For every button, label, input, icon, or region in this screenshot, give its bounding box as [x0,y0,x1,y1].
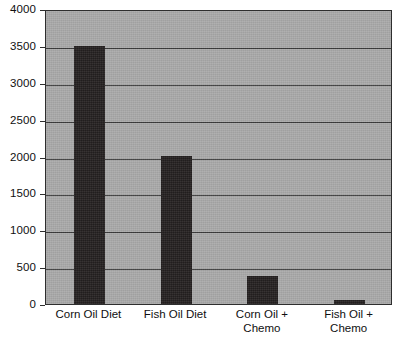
y-axis-tick-label: 4000 [10,4,36,16]
x-axis-tick-label: Fish Oil + Chemo [305,308,392,335]
bar [334,300,365,304]
y-axis-tick-label: 0 [30,299,37,311]
bar [247,276,278,304]
x-axis-tick-label: Fish Oil Diet [132,308,219,322]
bar-chart: 40003500300025002000150010005000 Corn Oi… [0,0,405,348]
x-axis-tick-label: Corn Oil + Chemo [219,308,306,335]
plot-area [45,10,392,305]
y-axis: 40003500300025002000150010005000 [0,0,42,348]
x-axis-tick-label: Corn Oil Diet [45,308,132,322]
y-axis-tick-label: 500 [17,262,37,274]
y-axis-tick-mark [40,305,45,306]
x-axis: Corn Oil DietFish Oil DietCorn Oil + Che… [45,308,392,346]
y-axis-tick-label: 2000 [10,152,36,164]
bar [161,156,192,304]
bar [74,46,105,304]
y-axis-tick-label: 3000 [10,78,36,90]
y-axis-tick-label: 2500 [10,115,36,127]
y-axis-tick-label: 1500 [10,188,36,200]
y-axis-tick-label: 3500 [10,41,36,53]
y-axis-tick-label: 1000 [10,225,36,237]
